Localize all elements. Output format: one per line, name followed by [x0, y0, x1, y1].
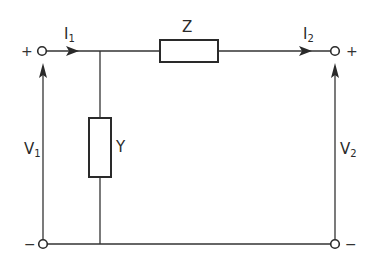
current-i2-label: I2	[303, 27, 314, 44]
input-bottom-terminal	[39, 240, 48, 249]
impedance-z-label: Z	[182, 20, 192, 35]
current-i1-label: I1	[64, 27, 75, 44]
circuit-diagram	[0, 0, 370, 258]
output-plus-sign: +	[346, 44, 358, 58]
output-minus-sign: −	[345, 237, 357, 251]
output-top-terminal	[331, 47, 340, 56]
output-bottom-terminal	[331, 240, 340, 249]
input-top-terminal	[38, 47, 47, 56]
impedance-z-box	[160, 40, 218, 62]
voltage-v1-label: V1	[24, 142, 41, 159]
admittance-y-box	[89, 118, 111, 177]
input-minus-sign: −	[24, 237, 36, 251]
input-plus-sign: +	[21, 44, 33, 58]
voltage-v2-label: V2	[340, 142, 357, 159]
admittance-y-label: Y	[116, 140, 125, 155]
